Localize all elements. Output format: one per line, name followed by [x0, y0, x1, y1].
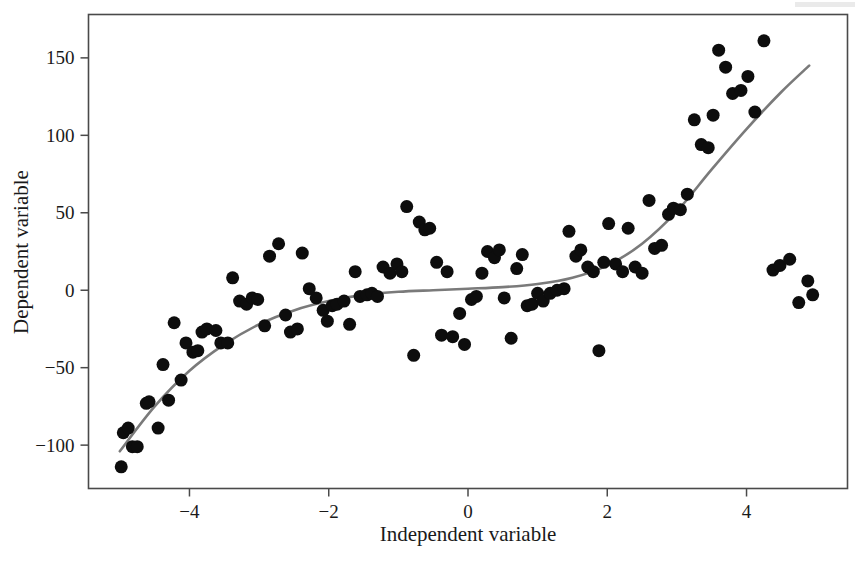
data-point	[674, 203, 687, 216]
data-point	[636, 267, 649, 280]
data-point	[616, 265, 629, 278]
data-point	[296, 247, 309, 260]
data-point	[423, 222, 436, 235]
data-point	[702, 141, 715, 154]
scan-artifact	[795, 2, 855, 7]
data-point	[470, 290, 483, 303]
data-point	[622, 222, 635, 235]
y-tick-label: 50	[56, 202, 75, 223]
data-point	[643, 194, 656, 207]
data-point	[122, 422, 135, 435]
data-point	[349, 265, 362, 278]
data-point	[498, 291, 511, 304]
data-point	[806, 288, 819, 301]
x-tick-label: 4	[742, 501, 752, 522]
data-point	[748, 106, 761, 119]
data-point	[453, 307, 466, 320]
y-tick-label: −50	[45, 357, 75, 378]
data-point	[400, 200, 413, 213]
data-point	[251, 293, 264, 306]
data-point	[258, 319, 271, 332]
data-point	[602, 217, 615, 230]
data-point	[688, 113, 701, 126]
y-axis-title: Dependent variable	[9, 170, 33, 334]
data-point	[371, 290, 384, 303]
data-point	[395, 265, 408, 278]
data-point	[574, 243, 587, 256]
data-point	[493, 243, 506, 256]
data-point	[115, 460, 128, 473]
data-point	[191, 344, 204, 357]
data-point	[263, 250, 276, 263]
data-point	[558, 282, 571, 295]
data-point	[226, 271, 239, 284]
data-point	[505, 332, 518, 345]
data-point	[168, 316, 181, 329]
data-point	[430, 256, 443, 269]
data-point	[510, 262, 523, 275]
data-point	[441, 265, 454, 278]
data-point	[458, 338, 471, 351]
data-point	[757, 34, 770, 47]
y-tick-label: 0	[65, 280, 75, 301]
data-point	[597, 256, 610, 269]
data-point	[152, 422, 165, 435]
data-point	[338, 295, 351, 308]
figure-container: −4−2024 −100−50050100150 Independent var…	[0, 0, 858, 571]
scatter-plot: −4−2024 −100−50050100150 Independent var…	[0, 0, 858, 571]
data-point	[175, 374, 188, 387]
data-point	[343, 318, 356, 331]
data-point	[783, 253, 796, 266]
data-point	[792, 296, 805, 309]
data-point	[741, 70, 754, 83]
data-point	[162, 394, 175, 407]
x-tick-label: −4	[179, 501, 200, 522]
data-point	[131, 440, 144, 453]
data-point	[516, 248, 529, 261]
data-point	[712, 44, 725, 57]
data-point	[707, 109, 720, 122]
data-point	[321, 315, 334, 328]
data-point	[291, 322, 304, 335]
data-point	[221, 336, 234, 349]
data-point	[310, 291, 323, 304]
data-point	[435, 329, 448, 342]
data-point	[587, 265, 600, 278]
x-axis-title: Independent variable	[380, 522, 557, 546]
data-point	[655, 239, 668, 252]
data-point	[475, 267, 488, 280]
y-tick-label: 150	[46, 47, 75, 68]
data-point	[446, 330, 459, 343]
data-point	[157, 358, 170, 371]
x-tick-label: 2	[603, 501, 613, 522]
data-point	[562, 225, 575, 238]
data-point	[719, 61, 732, 74]
x-tick-label: −2	[319, 501, 339, 522]
data-point	[801, 274, 814, 287]
y-tick-label: −100	[35, 435, 74, 456]
y-tick-label: 100	[46, 125, 75, 146]
canvas-background	[0, 0, 858, 571]
data-point	[209, 324, 222, 337]
data-point	[681, 188, 694, 201]
data-point	[734, 84, 747, 97]
x-tick-label: 0	[463, 501, 473, 522]
data-point	[407, 349, 420, 362]
data-point	[143, 395, 156, 408]
data-point	[592, 344, 605, 357]
data-point	[279, 309, 292, 322]
data-point	[272, 237, 285, 250]
